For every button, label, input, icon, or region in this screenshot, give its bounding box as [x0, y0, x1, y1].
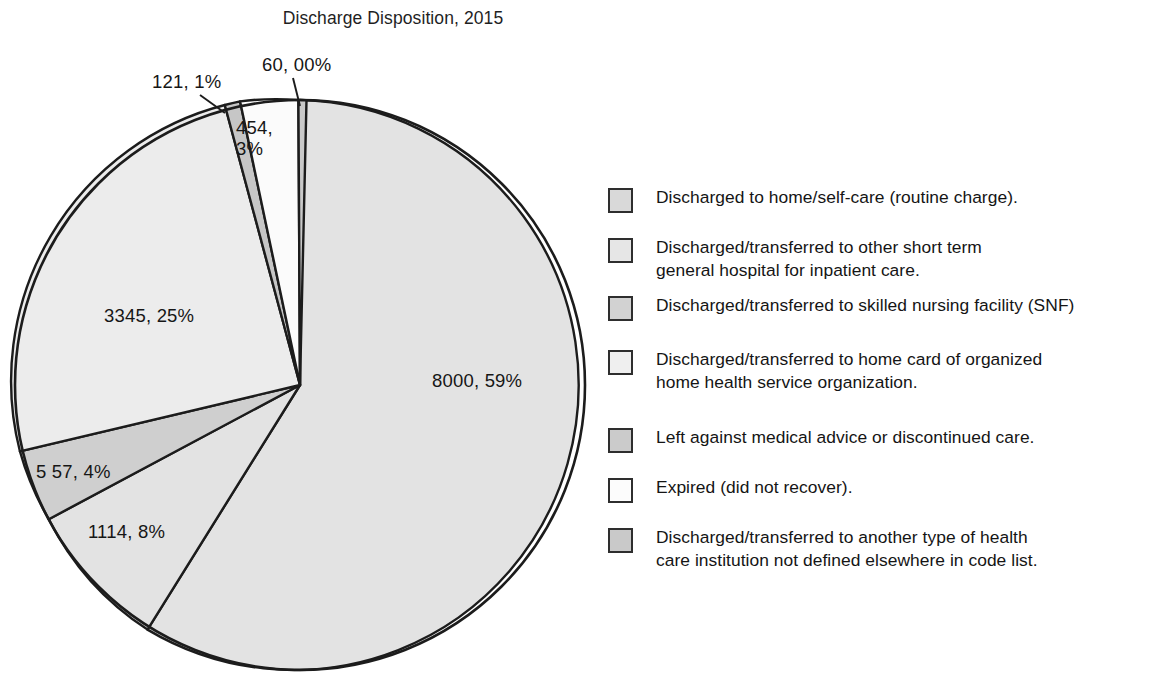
legend-item-label: Discharged/transferred to home card of o… [656, 348, 1042, 393]
legend-item-label: Expired (did not recover). [656, 476, 853, 499]
legend-item-other-institution[interactable]: Discharged/transferred to another type o… [608, 526, 1038, 571]
legend-item-label: Left against medical advice or discontin… [656, 426, 1035, 449]
legend-item-expired[interactable]: Expired (did not recover). [608, 476, 853, 503]
slice-label-other-institution: 60, 00% [262, 55, 331, 76]
pie-plot-area: 60, 00% 121, 1% 454, 3% 3345, 25% 8000, … [0, 0, 620, 679]
pie-svg [0, 0, 620, 679]
legend-item-label: Discharged/transferred to another type o… [656, 526, 1038, 571]
pie-chart-figure: Discharge Disposition, 2015 60, 00% [0, 0, 1176, 679]
legend-item-short-term-hospital[interactable]: Discharged/transferred to other short te… [608, 236, 982, 281]
slice-label-home-self-care: 8000, 59% [432, 371, 522, 392]
slice-label-snf: 5 57, 4% [36, 462, 111, 483]
legend-item-label: Discharged/transferred to skilled nursin… [656, 294, 1074, 317]
legend-item-label: Discharged to home/self-care (routine ch… [656, 186, 1018, 209]
legend-swatch-icon [608, 188, 633, 213]
slice-label-expired: 454, 3% [236, 118, 294, 159]
legend-swatch-icon [608, 350, 633, 375]
slice-label-short-term-hospital: 1114, 8% [88, 522, 165, 543]
legend-item-label: Discharged/transferred to other short te… [656, 236, 982, 281]
legend-item-home-health-service[interactable]: Discharged/transferred to home card of o… [608, 348, 1042, 393]
legend-swatch-icon [608, 296, 633, 321]
legend-swatch-icon [608, 528, 633, 553]
legend-item-snf[interactable]: Discharged/transferred to skilled nursin… [608, 294, 1074, 321]
legend-item-left-against-advice[interactable]: Left against medical advice or discontin… [608, 426, 1035, 453]
slice-label-left-against-advice: 121, 1% [152, 72, 221, 93]
legend-swatch-icon [608, 238, 633, 263]
legend-swatch-icon [608, 478, 633, 503]
legend-item-home-self-care[interactable]: Discharged to home/self-care (routine ch… [608, 186, 1018, 213]
slice-label-home-health-service: 3345, 25% [104, 306, 194, 327]
legend-swatch-icon [608, 428, 633, 453]
